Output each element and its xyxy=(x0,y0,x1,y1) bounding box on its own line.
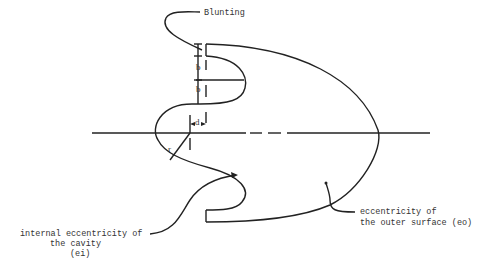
d-label: d xyxy=(195,117,200,127)
outer-leader-dot xyxy=(325,182,328,185)
outer-leader xyxy=(326,183,355,212)
b-label-lower: b xyxy=(196,84,201,94)
internal-eccentricity-line3: (ei) xyxy=(70,249,90,259)
b-label-upper: b xyxy=(196,62,201,72)
d-arrow-right xyxy=(201,122,206,126)
cavity-eccentricity-diagram: Blunting b b d r internal eccentricity o… xyxy=(0,0,493,266)
internal-eccentricity-line2: the cavity xyxy=(50,239,101,249)
internal-leader xyxy=(150,175,236,234)
internal-arrowhead xyxy=(231,172,238,178)
internal-eccentricity-line1: internal eccentricity of xyxy=(20,229,142,239)
blunting-label: Blunting xyxy=(204,8,245,18)
r-label: r xyxy=(168,144,171,154)
radius-line xyxy=(170,133,190,160)
outer-eccentricity-line2: the outer surface (eo) xyxy=(360,218,472,228)
outer-eccentricity-line1: eccentricity of xyxy=(360,207,437,217)
